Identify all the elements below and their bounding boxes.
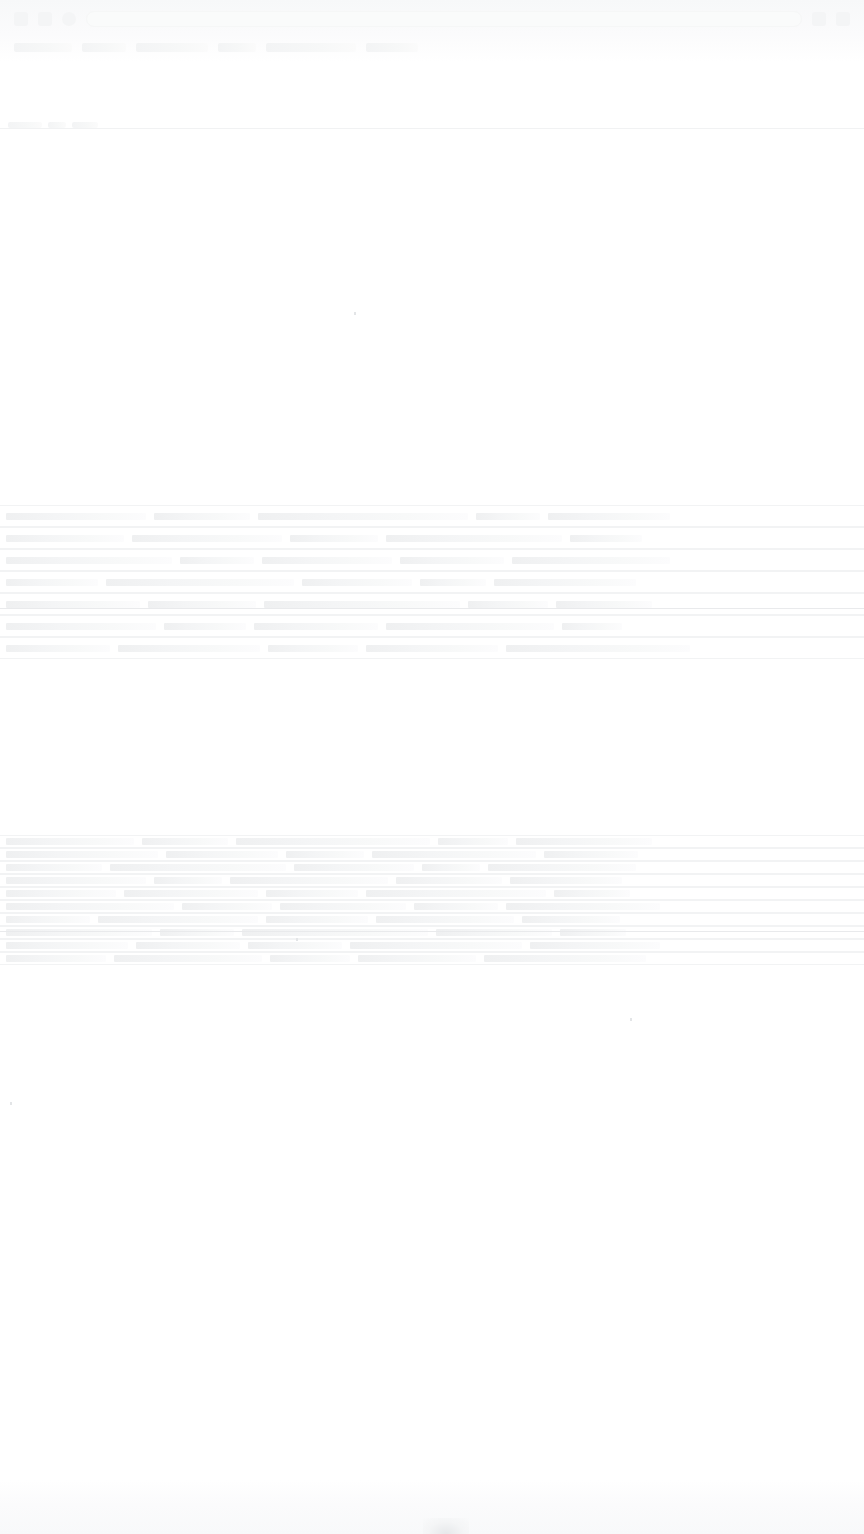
chrome-tab[interactable] xyxy=(218,43,256,52)
content-row[interactable] xyxy=(0,549,864,571)
content-cell xyxy=(268,645,358,652)
content-row[interactable] xyxy=(0,848,864,861)
content-cell xyxy=(106,579,294,586)
content-row[interactable] xyxy=(0,939,864,952)
image-speck xyxy=(354,312,356,315)
content-row[interactable] xyxy=(0,900,864,913)
content-cell xyxy=(376,916,514,923)
content-row[interactable] xyxy=(0,593,864,615)
content-cell xyxy=(522,916,620,923)
footer-wash xyxy=(0,1480,864,1534)
chrome-divider xyxy=(0,128,864,129)
content-cell xyxy=(420,579,486,586)
content-row[interactable] xyxy=(0,835,864,848)
divider-mark xyxy=(72,122,98,128)
content-cell xyxy=(180,557,254,564)
row-streak xyxy=(0,549,864,550)
content-cell xyxy=(290,535,378,542)
row-streak xyxy=(0,900,864,901)
content-cell xyxy=(6,535,124,542)
divider-marks xyxy=(8,122,98,128)
content-cell xyxy=(494,579,636,586)
content-cell xyxy=(506,645,690,652)
back-icon[interactable] xyxy=(14,12,28,26)
content-cell xyxy=(386,623,554,630)
content-cell xyxy=(6,851,158,858)
chrome-tab[interactable] xyxy=(14,43,72,52)
menu-icon[interactable] xyxy=(836,12,850,26)
content-rule-lower xyxy=(0,931,864,932)
content-row[interactable] xyxy=(0,861,864,874)
content-cell xyxy=(236,838,430,845)
content-cell xyxy=(386,535,562,542)
chrome-tab[interactable] xyxy=(82,43,126,52)
content-cell xyxy=(562,623,622,630)
content-cell xyxy=(266,890,358,897)
content-cell xyxy=(262,557,392,564)
content-cell xyxy=(6,877,146,884)
row-streak xyxy=(0,571,864,572)
content-row[interactable] xyxy=(0,527,864,549)
content-cell xyxy=(6,513,146,520)
content-cell xyxy=(468,601,548,608)
content-cell xyxy=(6,864,102,871)
row-streak xyxy=(0,505,864,506)
row-streak xyxy=(0,658,864,659)
content-row[interactable] xyxy=(0,874,864,887)
content-cell xyxy=(6,890,116,897)
content-row[interactable] xyxy=(0,637,864,659)
content-cell xyxy=(366,890,546,897)
content-cell xyxy=(556,601,652,608)
content-cell xyxy=(302,579,412,586)
content-cell xyxy=(286,851,364,858)
chrome-tab[interactable] xyxy=(366,43,418,52)
content-cell xyxy=(136,942,240,949)
row-streak xyxy=(0,913,864,914)
image-speck xyxy=(296,938,298,941)
content-row[interactable] xyxy=(0,571,864,593)
content-cell xyxy=(6,579,98,586)
star-icon[interactable] xyxy=(812,12,826,26)
content-cell xyxy=(438,838,508,845)
content-cell xyxy=(6,838,134,845)
content-cell xyxy=(230,877,388,884)
content-cell xyxy=(396,877,502,884)
content-cell xyxy=(484,955,646,962)
content-cell xyxy=(506,903,660,910)
divider-mark xyxy=(48,122,66,128)
content-cell xyxy=(124,890,258,897)
content-row[interactable] xyxy=(0,505,864,527)
content-cell xyxy=(6,601,140,608)
chrome-tab[interactable] xyxy=(266,43,356,52)
content-rule-upper xyxy=(0,608,864,609)
content-cell xyxy=(280,903,406,910)
content-row[interactable] xyxy=(0,926,864,939)
reload-icon[interactable] xyxy=(62,12,76,26)
address-input[interactable] xyxy=(86,11,802,27)
content-cell xyxy=(270,955,350,962)
content-row[interactable] xyxy=(0,887,864,900)
content-cell xyxy=(98,916,258,923)
forward-icon[interactable] xyxy=(38,12,52,26)
content-row[interactable] xyxy=(0,913,864,926)
content-cell xyxy=(516,838,652,845)
content-cell xyxy=(182,903,272,910)
content-row[interactable] xyxy=(0,615,864,637)
divider-mark xyxy=(8,122,42,128)
content-cell xyxy=(512,557,670,564)
top-chrome xyxy=(0,0,864,62)
content-cell xyxy=(476,513,540,520)
content-cell xyxy=(6,645,110,652)
content-cell xyxy=(142,838,228,845)
row-streak xyxy=(0,593,864,594)
chrome-tab[interactable] xyxy=(136,43,208,52)
content-row[interactable] xyxy=(0,952,864,965)
footer-smudge xyxy=(423,1518,469,1534)
row-streak xyxy=(0,615,864,616)
content-cell xyxy=(366,645,498,652)
content-cell xyxy=(6,955,106,962)
content-cell xyxy=(488,864,636,871)
content-cell xyxy=(400,557,504,564)
content-cell xyxy=(554,890,630,897)
row-streak xyxy=(0,861,864,862)
